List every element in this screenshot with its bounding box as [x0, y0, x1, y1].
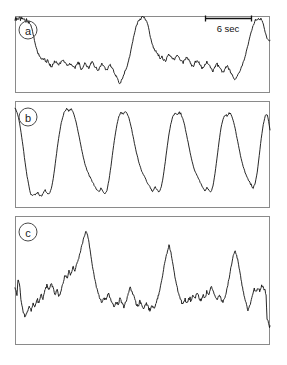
panel-b-label-text: b [25, 112, 31, 124]
panel-c-label-text: c [25, 227, 31, 239]
scale-bar-label: 6 sec [217, 23, 240, 34]
panel-b-frame [16, 102, 270, 208]
panel-c: c [15, 217, 270, 345]
panel-b: b [15, 102, 270, 208]
panel-a-label-text: a [25, 25, 32, 37]
recording-traces-figure: a 6 sec b c [0, 0, 287, 365]
panel-c-frame [16, 217, 270, 345]
